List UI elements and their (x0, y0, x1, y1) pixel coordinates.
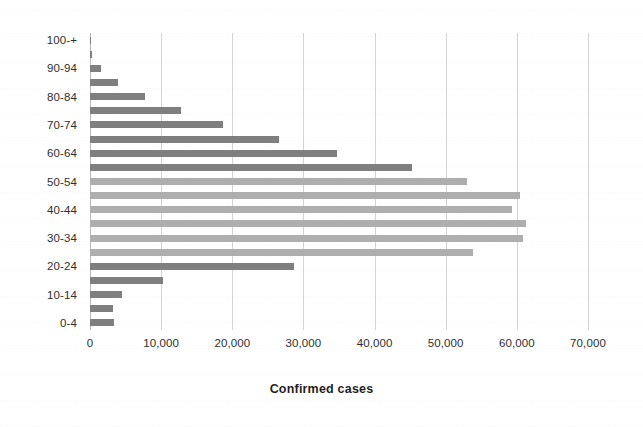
bar-row (90, 132, 588, 146)
bar-row (90, 118, 588, 132)
bar-row (90, 245, 588, 259)
bar-50-54 (90, 178, 467, 185)
bar-45-49 (90, 192, 520, 199)
bar-70-74 (90, 121, 223, 128)
bar-row (90, 61, 588, 75)
bar-row (90, 90, 588, 104)
bar-35-39 (90, 220, 526, 227)
bar-65-69 (90, 136, 279, 143)
bar-5-9 (90, 305, 113, 312)
bar-series (90, 33, 588, 330)
bar-40-44 (90, 206, 512, 213)
bar-10-14 (90, 291, 122, 298)
y-tick-label-70-74: 70-74 (47, 119, 77, 131)
x-axis-title: Confirmed cases (0, 382, 643, 396)
bar-row (90, 47, 588, 61)
bar-15-19 (90, 277, 163, 284)
bar-55-59 (90, 164, 412, 171)
bar-90-94 (90, 65, 101, 72)
bar-row (90, 217, 588, 231)
y-tick-label-50-54: 50-54 (47, 176, 77, 188)
bar-row (90, 75, 588, 89)
bar-30-34 (90, 235, 523, 242)
x-axis-labels: 010,00020,00030,00040,00050,00060,00070,… (0, 336, 643, 356)
x-tick-label-10000: 10,000 (143, 336, 179, 350)
y-tick-label-40-44: 40-44 (47, 204, 77, 216)
bar-100-+ (90, 37, 91, 44)
bar-75-79 (90, 107, 181, 114)
x-tick-label-30000: 30,000 (286, 336, 322, 350)
y-tick-label-20-24: 20-24 (47, 260, 77, 272)
bar-row (90, 273, 588, 287)
y-tick-label-30-34: 30-34 (47, 232, 77, 244)
bar-row (90, 174, 588, 188)
x-tick-label-40000: 40,000 (357, 336, 393, 350)
bar-row (90, 288, 588, 302)
bar-80-84 (90, 93, 145, 100)
gridline-70000 (588, 33, 589, 330)
bar-95-99 (90, 51, 92, 58)
y-tick-label-80-84: 80-84 (47, 91, 77, 103)
bar-row (90, 316, 588, 330)
bar-60-64 (90, 150, 337, 157)
y-tick-label-100-+: 100-+ (47, 34, 77, 46)
bar-row (90, 189, 588, 203)
bar-row (90, 160, 588, 174)
y-tick-label-90-94: 90-94 (47, 62, 77, 74)
bar-row (90, 104, 588, 118)
bar-25-29 (90, 249, 473, 256)
y-tick-label-60-64: 60-64 (47, 147, 77, 159)
bar-row (90, 302, 588, 316)
bar-row (90, 259, 588, 273)
x-tick-label-60000: 60,000 (499, 336, 535, 350)
bar-row (90, 146, 588, 160)
x-tick-label-0: 0 (87, 336, 94, 350)
x-tick-label-70000: 70,000 (570, 336, 606, 350)
plot-area (90, 33, 588, 330)
bar-85-89 (90, 79, 118, 86)
y-tick-label-10-14: 10-14 (47, 289, 77, 301)
bar-row (90, 203, 588, 217)
bar-row (90, 231, 588, 245)
bar-chart: 0-410-1420-2430-3440-4450-5460-6470-7480… (0, 0, 643, 427)
bar-row (90, 33, 588, 47)
bar-20-24 (90, 263, 294, 270)
bar-0-4 (90, 319, 114, 326)
y-tick-label-0-4: 0-4 (60, 317, 77, 329)
x-tick-label-50000: 50,000 (428, 336, 464, 350)
x-tick-label-20000: 20,000 (214, 336, 250, 350)
y-axis-labels: 0-410-1420-2430-3440-4450-5460-6470-7480… (0, 33, 84, 330)
